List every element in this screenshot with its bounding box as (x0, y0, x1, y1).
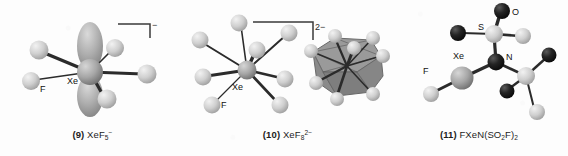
xenon-atom-11 (451, 67, 474, 90)
atom-label-f-11: F (423, 66, 429, 76)
atom-label-f-9: F (40, 84, 46, 94)
charge-label-9: − (152, 20, 157, 30)
charge-bracket-9 (0, 0, 185, 126)
formula-core-9: XeF (87, 129, 105, 140)
caption-structure-11: (11) FXeN(SO2F)2 (390, 129, 568, 141)
structure-9-stage: − Xe F (0, 0, 185, 126)
structure-10-stage: 2− Xe F (185, 0, 390, 126)
formula-tail-11: F) (505, 129, 514, 140)
structure-number-11: (11) (440, 129, 457, 140)
atom-label-o-11: O (512, 7, 519, 17)
structure-11-panel: S O Xe N F (11) FXeN(SO2F)2 (390, 0, 568, 156)
atom-label-s-11: S (478, 22, 484, 32)
charge-bracket-10 (185, 0, 390, 126)
formula-core-11: FXeN(SO (459, 129, 501, 140)
nitrogen-atom-11 (488, 54, 505, 71)
structure-11-stage: S O Xe N F (390, 0, 568, 126)
structure-9-panel: − Xe F (9) XeF5− (0, 0, 185, 156)
structure-11-model (390, 0, 568, 126)
caption-structure-9: (9) XeF5− (0, 129, 185, 141)
atom-label-f-10: F (221, 100, 227, 110)
structure-10-panel: 2− Xe F (10) XeF82− (185, 0, 390, 156)
structure-number-9: (9) (72, 129, 84, 140)
atom-label-xe-9: Xe (67, 76, 78, 86)
formula-sup-10: 2− (304, 129, 312, 136)
formula-sup-9: − (109, 129, 113, 136)
formula-sub-11b: 2 (514, 134, 518, 141)
caption-structure-10: (10) XeF82− (185, 129, 390, 141)
structure-number-10: (10) (263, 129, 280, 140)
chemistry-figure: − Xe F (9) XeF5− (0, 0, 568, 156)
formula-core-10: XeF (283, 129, 301, 140)
charge-label-10: 2− (315, 22, 325, 32)
atom-label-xe-11: Xe (453, 51, 464, 61)
atom-label-n-11: N (506, 52, 513, 62)
atom-label-xe-10: Xe (232, 82, 243, 92)
